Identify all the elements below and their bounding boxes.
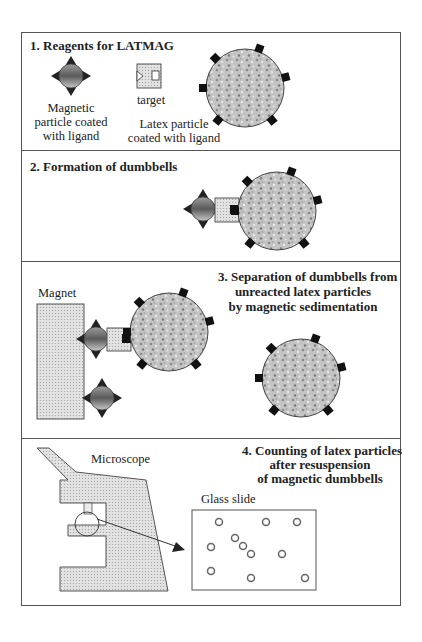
title-line: unreacted latex particles (218, 284, 388, 299)
panel-4-title: 4. Counting of latex particles after res… (242, 444, 398, 486)
panel-divider (21, 438, 401, 439)
magnet-label: Magnet (38, 286, 76, 300)
title-line: 4. Counting of latex particles (242, 444, 398, 458)
panel-2-title: 2. Formation of dumbbells (30, 159, 177, 175)
label-line: particle coated (26, 115, 116, 129)
title-line: by magnetic sedimentation (218, 299, 388, 314)
title-line: 3. Separation of dumbbells from (218, 269, 388, 284)
microscope-label: Microscope (91, 452, 150, 466)
target-label: target (128, 93, 174, 107)
panel-divider (21, 261, 401, 262)
glass-slide-label: Glass slide (201, 492, 256, 506)
label-line: Latex particle (122, 117, 226, 131)
label-line: coated with ligand (122, 131, 226, 145)
panel-3-title: 3. Separation of dumbbells from unreacte… (218, 269, 388, 314)
title-line: of magnetic dumbbells (242, 472, 398, 486)
magnetic-particle-label: Magnetic particle coated with ligand (26, 101, 116, 143)
latex-particle-label: Latex particle coated with ligand (122, 117, 226, 145)
panel-divider (21, 150, 401, 151)
panel-1-title: 1. Reagents for LATMAG (30, 38, 174, 54)
title-line: after resuspension (242, 458, 398, 472)
label-line: Magnetic (26, 101, 116, 115)
label-line: with ligand (26, 129, 116, 143)
